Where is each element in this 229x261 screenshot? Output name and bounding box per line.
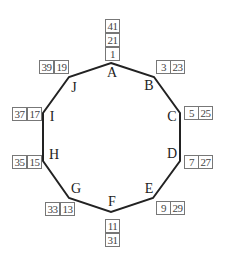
vertex-label-a: A [107,66,117,80]
number-box-f-11: 11 [105,219,120,233]
number-box-j-39: 39 [39,60,54,74]
number-box-c-25: 25 [198,106,213,120]
number-box-h-15: 15 [27,155,42,169]
vertex-label-b: B [144,79,153,93]
number-box-h-35: 35 [12,155,27,169]
vertex-label-e: E [145,182,154,196]
number-box-g-13: 13 [60,202,75,216]
vertex-label-g: G [71,182,81,196]
vertex-label-c: C [167,110,176,124]
number-box-j-19: 19 [54,60,69,74]
number-box-a-1: 1 [105,47,120,61]
number-box-d-27: 27 [198,155,213,169]
vertex-label-f: F [108,195,116,209]
number-box-b-23: 23 [170,60,185,74]
number-box-e-29: 29 [170,201,185,215]
number-box-e-9: 9 [156,201,171,215]
number-box-g-33: 33 [45,202,60,216]
vertex-label-d: D [167,147,177,161]
vertex-label-i: I [50,110,55,124]
number-box-b-3: 3 [156,60,171,74]
number-box-i-17: 17 [27,107,42,121]
vertex-label-h: H [49,148,59,162]
number-box-c-5: 5 [184,106,199,120]
vertex-label-j: J [71,81,76,95]
number-box-a-41: 41 [105,19,120,33]
number-box-f-31: 31 [105,233,120,247]
number-box-d-7: 7 [184,155,199,169]
number-box-a-21: 21 [105,33,120,47]
number-box-i-37: 37 [12,107,27,121]
